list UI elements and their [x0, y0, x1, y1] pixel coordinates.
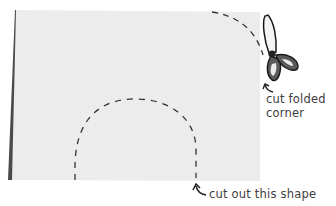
curved-arrow-icon [193, 184, 206, 195]
curved-arrow-icon [263, 84, 273, 92]
corner-cut-label: cut folded corner [266, 92, 326, 120]
corner-cut-label-line2: corner [266, 106, 326, 120]
scissors-icon [264, 15, 298, 80]
shape-cut-label: cut out this shape [209, 187, 316, 201]
corner-cut-label-line1: cut folded [266, 92, 326, 106]
diagram: cut folded corner cut out this shape [0, 0, 336, 206]
paper-sheet [12, 10, 260, 181]
